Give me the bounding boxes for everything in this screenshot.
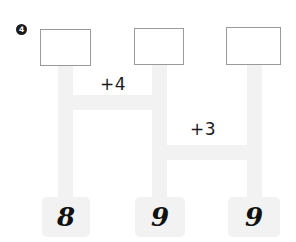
answer-box-1[interactable] — [40, 29, 91, 66]
number-tile-1[interactable]: 8 — [42, 197, 90, 237]
question-number-badge: 4 — [16, 24, 27, 35]
connector-stem-right — [247, 65, 262, 202]
number-tile-3[interactable]: 9 — [228, 197, 280, 237]
number-tile-2[interactable]: 9 — [135, 197, 185, 237]
connector-cross-lower — [152, 145, 262, 160]
worksheet-canvas: 4 +4 +3 8 9 9 — [0, 0, 296, 242]
operation-label-plus-4: +4 — [100, 74, 126, 94]
operation-label-plus-3: +3 — [190, 119, 216, 139]
connector-cross-upper — [58, 95, 167, 110]
connector-stem-left — [58, 66, 73, 202]
answer-box-2[interactable] — [134, 28, 184, 65]
answer-box-3[interactable] — [226, 27, 281, 65]
connector-stem-middle — [152, 65, 167, 202]
